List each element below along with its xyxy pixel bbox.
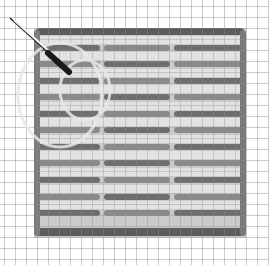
woven-mat-scene <box>0 0 269 265</box>
woven-mat <box>34 28 246 238</box>
